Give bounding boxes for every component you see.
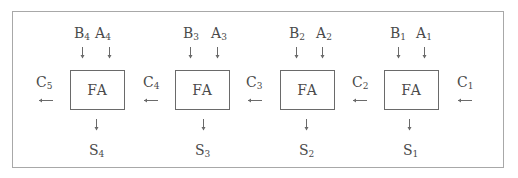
input-label-a4: A4 — [95, 26, 111, 44]
arrow-down-icon — [213, 47, 222, 59]
sum-label-s2: S2 — [299, 143, 314, 161]
carry-label-c2: C2 — [352, 75, 368, 93]
arrow-down-icon — [394, 47, 403, 59]
carry-arrow-left-icon — [457, 97, 472, 104]
arrow-down-icon — [199, 119, 208, 131]
input-label-b3: B3 — [183, 26, 199, 44]
full-adder-box-1: FA — [384, 70, 439, 110]
sum-label-s4: S4 — [89, 143, 104, 161]
carry-label-c5: C5 — [36, 75, 52, 93]
input-label-a1: A1 — [416, 26, 432, 44]
carry-arrow-left-icon — [38, 97, 53, 104]
carry-label-c4: C4 — [143, 75, 159, 93]
arrow-down-icon — [318, 47, 327, 59]
sum-label-s3: S3 — [195, 143, 210, 161]
full-adder-box-3: FA — [175, 70, 230, 110]
carry-arrow-left-icon — [247, 97, 262, 104]
arrow-down-icon — [302, 119, 311, 131]
arrow-down-icon — [292, 47, 301, 59]
input-label-a3: A3 — [211, 26, 227, 44]
carry-arrow-left-icon — [352, 97, 367, 104]
input-label-b1: B1 — [390, 26, 406, 44]
carry-arrow-left-icon — [143, 97, 158, 104]
arrow-down-icon — [92, 119, 101, 131]
carry-label-c1: C1 — [457, 75, 473, 93]
full-adder-box-2: FA — [280, 70, 335, 110]
arrow-down-icon — [78, 47, 87, 59]
arrow-down-icon — [186, 47, 195, 59]
arrow-down-icon — [405, 119, 414, 131]
carry-label-c3: C3 — [246, 75, 262, 93]
arrow-down-icon — [105, 47, 114, 59]
input-label-b2: B2 — [289, 26, 305, 44]
full-adder-box-4: FA — [70, 70, 125, 110]
input-label-b4: B4 — [74, 26, 90, 44]
arrow-down-icon — [420, 47, 429, 59]
input-label-a2: A2 — [316, 26, 332, 44]
sum-label-s1: S1 — [403, 143, 418, 161]
